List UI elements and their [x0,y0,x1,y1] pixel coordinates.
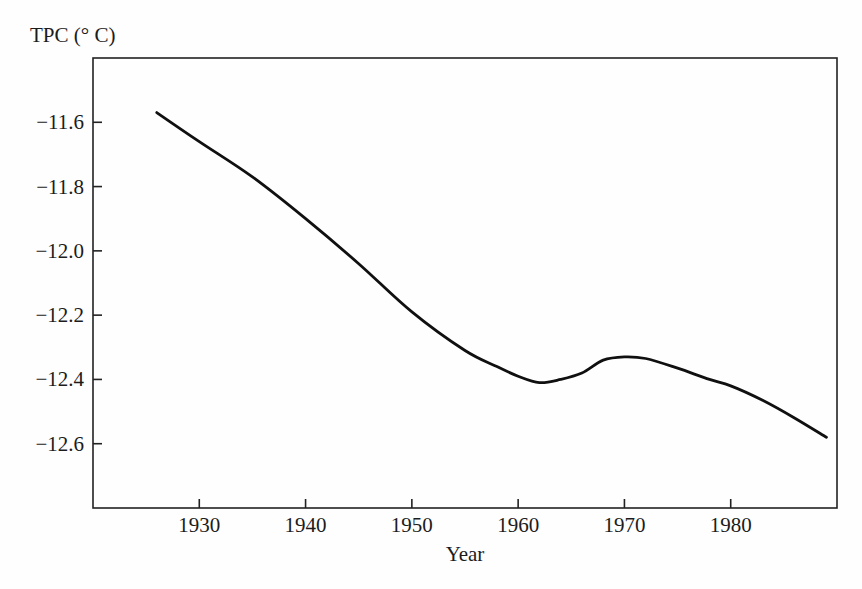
x-axis-label: Year [365,542,565,567]
plot-border [93,58,837,508]
x-tick-label: 1960 [476,512,560,538]
y-tick-label: −11.6 [12,110,84,134]
x-tick-label: 1970 [582,512,666,538]
y-tick-label: −12.2 [12,303,84,327]
y-tick-label: −11.8 [12,175,84,199]
y-tick-label: −12.4 [12,367,84,391]
y-tick-label: −12.6 [12,432,84,456]
x-tick-label: 1980 [689,512,773,538]
y-axis-label: TPC (° C) [30,23,115,48]
x-tick-label: 1930 [157,512,241,538]
tpc-curve [157,113,827,438]
y-tick-label: −12.0 [12,239,84,263]
line-chart-figure: TPC (° C) Year 193019401950196019701980−… [0,0,862,589]
x-tick-label: 1950 [370,512,454,538]
x-tick-label: 1940 [264,512,348,538]
plot-area [0,0,862,589]
